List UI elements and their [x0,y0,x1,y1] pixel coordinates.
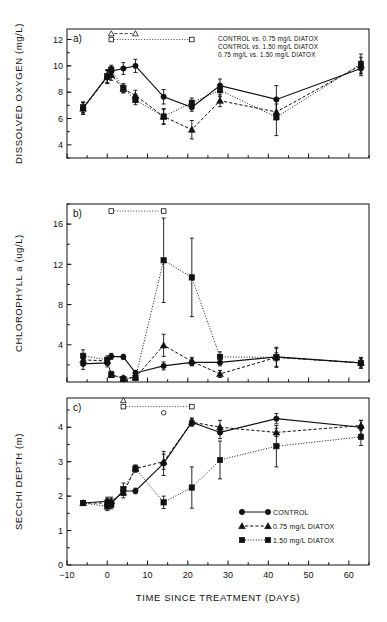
marker-square [358,61,363,66]
marker-square [133,375,138,380]
y-axis-title-a: DISSOLVED OXYGEN (mg/L) [13,23,24,164]
y-tick-label: 10 [53,61,63,71]
marker-square [358,360,363,365]
marker-circle [133,63,138,68]
marker-square [274,114,279,119]
x-tick-label: 40 [263,570,273,580]
marker-square [133,466,138,471]
marker-square [358,434,363,439]
marker-square [109,37,114,42]
marker-square [217,354,222,359]
marker-square [239,537,244,542]
significance-bar-c-1 [121,404,194,409]
marker-square [109,502,114,507]
marker-square [217,457,222,462]
y-tick-label: 0 [58,560,63,570]
y-tick-label: 3 [58,457,63,467]
series-line-1-50-mg-l-diatox [83,437,361,507]
series-line-0-75-mg-l-diatox [83,65,361,130]
marker-square [265,537,270,542]
marker-square [109,209,114,214]
panel-label-c: c) [73,402,81,413]
marker-triangle [265,523,272,529]
significance-bar-a-0 [108,31,138,36]
marker-circle [265,509,270,514]
legend-label: 0.75 mg/L DIATOX [273,523,335,531]
marker-circle [161,94,166,99]
marker-circle [274,416,279,421]
marker-square [189,100,194,105]
y-tick-label: 8 [58,300,63,310]
marker-circle [161,363,166,368]
marker-circle [239,509,244,514]
marker-square [190,37,195,42]
marker-triangle [217,97,224,103]
significance-bar-b-0 [109,209,166,214]
marker-circle [121,66,126,71]
significance-bar-c-2 [161,411,166,416]
y-tick-label: 8 [58,87,63,97]
x-tick-label: 60 [344,570,354,580]
marker-square [80,500,85,505]
legend-item-low: 0.75 mg/L DIATOX [239,523,335,531]
marker-square [217,88,222,93]
marker-triangle [239,523,246,529]
y-tick-label: 12 [53,260,63,270]
marker-triangle [133,31,139,36]
panel-c: 01234 [58,398,369,571]
x-tick-label: −10 [59,570,74,580]
marker-circle [133,488,138,493]
marker-square [189,485,194,490]
panel-label-a: a) [73,33,82,44]
marker-circle [121,354,126,359]
panel-b: 481216 [53,204,369,382]
marker-square [105,74,110,79]
x-tick-label: 0 [105,570,110,580]
significance-bar-a-1 [109,37,194,42]
marker-square [274,444,279,449]
marker-square [161,114,166,119]
y-tick-label: 16 [53,219,63,229]
annotation-line-3: 0.75 mg/L vs. 1.50 mg/L DIATOX [218,51,316,59]
marker-triangle [160,342,167,348]
legend-label: CONTROL [273,509,309,516]
y-tick-label: 12 [53,35,63,45]
marker-triangle [108,31,114,36]
legend-item-control: CONTROL [239,509,308,516]
y-tick-label: 1 [58,526,63,536]
marker-square [161,258,166,263]
legend-label: 1.50 mg/L DIATOX [273,537,335,545]
marker-square [121,404,126,409]
y-tick-label: 6 [58,114,63,124]
multi-panel-chart: 468101248121601234−100102030405060TIME S… [0,0,387,622]
legend-item-high: 1.50 mg/L DIATOX [239,537,334,545]
marker-square [274,355,279,360]
y-tick-label: 4 [58,340,63,350]
marker-square [80,353,85,358]
marker-square [121,487,126,492]
marker-square [105,357,110,362]
annotation-line-2: CONTROL vs. 1.50 mg/L DIATOX [218,43,319,51]
y-tick-label: 4 [58,422,63,432]
y-tick-label: 4 [58,140,63,150]
panel-label-b: b) [73,208,82,219]
marker-square [133,97,138,102]
marker-circle [161,411,166,416]
y-tick-label: 2 [58,491,63,501]
x-tick-label: 30 [223,570,233,580]
marker-triangle [358,422,365,428]
figure-container: 468101248121601234−100102030405060TIME S… [0,0,387,622]
panel-a: 4681012 [53,29,369,158]
marker-square [161,500,166,505]
x-tick-label: 20 [183,570,193,580]
marker-square [109,67,114,72]
x-tick-label: 10 [143,570,153,580]
y-axis-title-b: CHLOROPHYLL a (ug/L) [13,234,24,352]
annotation-line-1: CONTROL vs. 0.75 mg/L DIATOX [218,35,319,43]
marker-square [109,372,114,377]
marker-square [190,404,195,409]
x-tick-label: 50 [304,570,314,580]
marker-square [121,376,126,381]
marker-square [121,86,126,91]
x-axis-title: TIME SINCE TREATMENT (DAYS) [136,592,300,603]
